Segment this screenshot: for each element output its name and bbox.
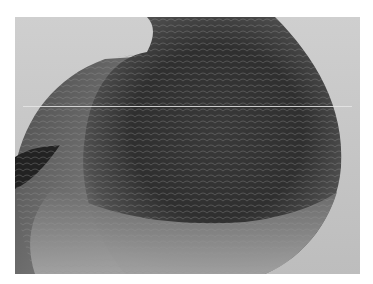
pigeon-photo bbox=[15, 17, 360, 274]
scan-line-artifact bbox=[23, 106, 352, 107]
pigeon-illustration bbox=[15, 17, 360, 274]
